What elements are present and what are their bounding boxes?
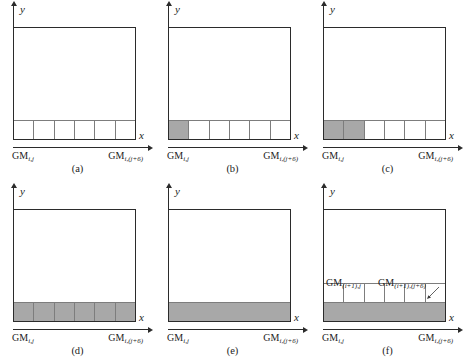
y-axis-label: y [20, 3, 25, 15]
gm-prefix: GM [418, 150, 434, 161]
gm-label-inner-left: GM(i+1),j [326, 277, 361, 290]
grid-cell-filled [75, 303, 95, 321]
grid-cell-empty [250, 121, 270, 139]
x-axis-arrow-icon [148, 327, 153, 333]
grid-box [13, 209, 136, 322]
grid-cell-empty [271, 121, 290, 139]
gm-label-left: GMi,j [12, 150, 34, 163]
y-axis-line [13, 186, 14, 210]
x-axis-line [168, 329, 304, 330]
gm-subscript: i,j [183, 155, 189, 163]
grid-box [323, 27, 446, 140]
gm-subscript: i,j [28, 155, 34, 163]
row-stack [14, 302, 135, 321]
grid-box [323, 209, 446, 322]
gm-subscript: i,j [183, 337, 189, 345]
x-axis-line [13, 329, 149, 330]
gm-prefix: GM [12, 150, 28, 161]
x-axis-arrow-icon [303, 327, 308, 333]
grid-cell-filled [344, 121, 364, 139]
x-axis-line [323, 329, 459, 330]
x-axis-label: x [449, 311, 454, 323]
gm-subscript: i,(j+6) [124, 155, 143, 163]
gm-prefix: GM [263, 332, 279, 343]
grid-cell-filled [95, 303, 115, 321]
gm-subscript: (i+1),(j+6) [394, 282, 425, 290]
gm-label-right: GMi,(j+6) [263, 150, 298, 163]
y-axis-label: y [330, 185, 335, 197]
grid-box [13, 27, 136, 140]
grid-box [168, 209, 291, 322]
solid-fill-row [324, 302, 445, 321]
grid-box [168, 27, 291, 140]
grid-cell-empty [365, 121, 385, 139]
gm-subscript: i,(j+6) [434, 155, 453, 163]
y-axis-line [13, 4, 14, 28]
gm-label-left: GMi,j [322, 150, 344, 163]
grid-cell-filled [169, 121, 189, 139]
x-axis-line [168, 147, 304, 148]
grid-cell-filled [14, 303, 34, 321]
row-stack [169, 302, 290, 321]
panel-caption: (f) [310, 345, 465, 356]
grid-cell-empty [426, 121, 445, 139]
panel-f: yxGMi,jGMi,(j+6)GM(i+1),jGM(i+1),(j+6)(f… [310, 182, 465, 364]
gm-label-right: GMi,(j+6) [418, 150, 453, 163]
y-axis-line [168, 186, 169, 210]
panel-caption: (a) [0, 163, 155, 174]
x-axis-line [13, 147, 149, 148]
x-axis-label: x [139, 311, 144, 323]
x-axis-label: x [294, 129, 299, 141]
row-stack [324, 120, 445, 139]
y-axis-line [323, 4, 324, 28]
grid-cell-filled [324, 121, 344, 139]
y-axis-label: y [175, 185, 180, 197]
y-axis-label: y [175, 3, 180, 15]
x-axis-arrow-icon [148, 145, 153, 151]
gm-subscript: i,j [28, 337, 34, 345]
gm-prefix: GM [108, 150, 124, 161]
grid-cell-empty [405, 121, 425, 139]
grid-cell-empty [75, 121, 95, 139]
x-axis-arrow-icon [458, 327, 463, 333]
cell-row [14, 302, 135, 321]
x-axis-label: x [294, 311, 299, 323]
grid-cell-empty [426, 284, 445, 302]
gm-subscript: i,j [338, 155, 344, 163]
grid-cell-empty [55, 121, 75, 139]
gm-subscript: i,(j+6) [434, 337, 453, 345]
gm-subscript: i,(j+6) [279, 155, 298, 163]
x-axis-label: x [449, 129, 454, 141]
y-axis-label: y [330, 3, 335, 15]
gm-prefix: GM [322, 332, 338, 343]
gm-subscript: i,(j+6) [124, 337, 143, 345]
gm-label-right: GMi,(j+6) [108, 150, 143, 163]
grid-cell-filled [116, 303, 135, 321]
gm-label-inner-right: GM(i+1),(j+6) [378, 277, 426, 290]
panel-a: yxGMi,jGMi,(j+6)(a) [0, 0, 155, 182]
panel-caption: (c) [310, 163, 465, 174]
gm-prefix: GM [167, 150, 183, 161]
x-axis-label: x [139, 129, 144, 141]
panel-caption: (d) [0, 345, 155, 356]
panel-e: yxGMi,jGMi,(j+6)(e) [155, 182, 310, 364]
y-axis-line [168, 4, 169, 28]
panel-c: yxGMi,jGMi,(j+6)(c) [310, 0, 465, 182]
grid-cell-empty [385, 121, 405, 139]
gm-subscript: i,j [338, 337, 344, 345]
gm-prefix: GM [326, 277, 342, 288]
figure-container: yxGMi,jGMi,(j+6)(a)yxGMi,jGMi,(j+6)(b)yx… [0, 0, 467, 364]
x-axis-line [323, 147, 459, 148]
gm-prefix: GM [263, 150, 279, 161]
gm-prefix: GM [322, 150, 338, 161]
gm-label-left: GMi,j [167, 332, 189, 345]
x-axis-arrow-icon [458, 145, 463, 151]
grid-cell-filled [55, 303, 75, 321]
gm-prefix: GM [12, 332, 28, 343]
grid-cell-empty [210, 121, 230, 139]
cell-row [169, 120, 290, 139]
panel-caption: (e) [155, 345, 310, 356]
gm-prefix: GM [418, 332, 434, 343]
grid-cell-empty [95, 121, 115, 139]
grid-cell-filled [34, 303, 54, 321]
